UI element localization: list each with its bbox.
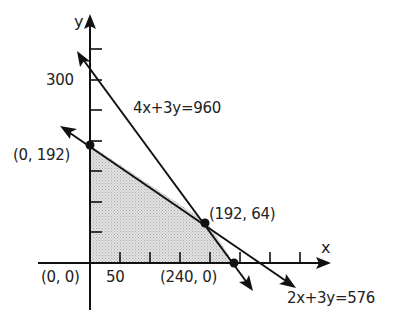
x-tick-label-50: 50 bbox=[106, 270, 125, 285]
vertex-label-240-0: (240, 0) bbox=[160, 270, 217, 285]
line-label-2x-3y-576: 2x+3y=576 bbox=[287, 291, 375, 306]
vertex-240-0 bbox=[230, 259, 239, 268]
line-label-4x-3y-960: 4x+3y=960 bbox=[133, 101, 221, 116]
vertex-0-192 bbox=[86, 141, 95, 150]
graph: y x 300 50 4x+3y=960 2x+3y=576 (0, 192) … bbox=[0, 0, 404, 318]
vertex-label-0-192: (0, 192) bbox=[13, 148, 70, 163]
y-tick-label-300: 300 bbox=[46, 73, 74, 88]
y-axis-label: y bbox=[74, 14, 83, 30]
vertex-label-192-64: (192, 64) bbox=[209, 207, 275, 222]
vertex-label-0-0: (0, 0) bbox=[41, 270, 80, 285]
x-axis-label: x bbox=[321, 240, 330, 256]
